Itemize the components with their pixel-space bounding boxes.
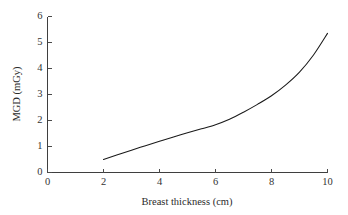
y-tick-label: 4 [37,62,43,73]
y-tick-label: 2 [37,114,42,125]
y-tick-label: 5 [37,36,42,47]
y-axis-tick-labels: 0123456 [37,10,43,177]
x-tick-label: 4 [157,176,163,187]
figure-container: 0246810 0123456 Breast thickness (cm) MG… [0,0,348,215]
y-axis-ticks [48,17,52,173]
x-tick-label: 10 [322,176,333,187]
y-tick-label: 0 [37,166,42,177]
x-axis-tick-labels: 0246810 [45,176,333,187]
mgd-breast-thickness-chart: 0246810 0123456 Breast thickness (cm) MG… [0,0,348,215]
x-tick-label: 8 [269,176,274,187]
y-tick-label: 1 [37,140,42,151]
x-tick-label: 2 [101,176,106,187]
x-tick-label: 0 [45,176,50,187]
y-tick-label: 3 [37,88,42,99]
data-curve-mgd [104,33,328,159]
x-tick-label: 6 [213,176,218,187]
plot-area: 0246810 0123456 [37,10,333,187]
y-axis-title: MGD (mGy) [11,66,23,122]
x-axis-ticks [48,169,328,173]
x-axis-title: Breast thickness (cm) [142,196,233,208]
y-tick-label: 6 [37,10,42,21]
